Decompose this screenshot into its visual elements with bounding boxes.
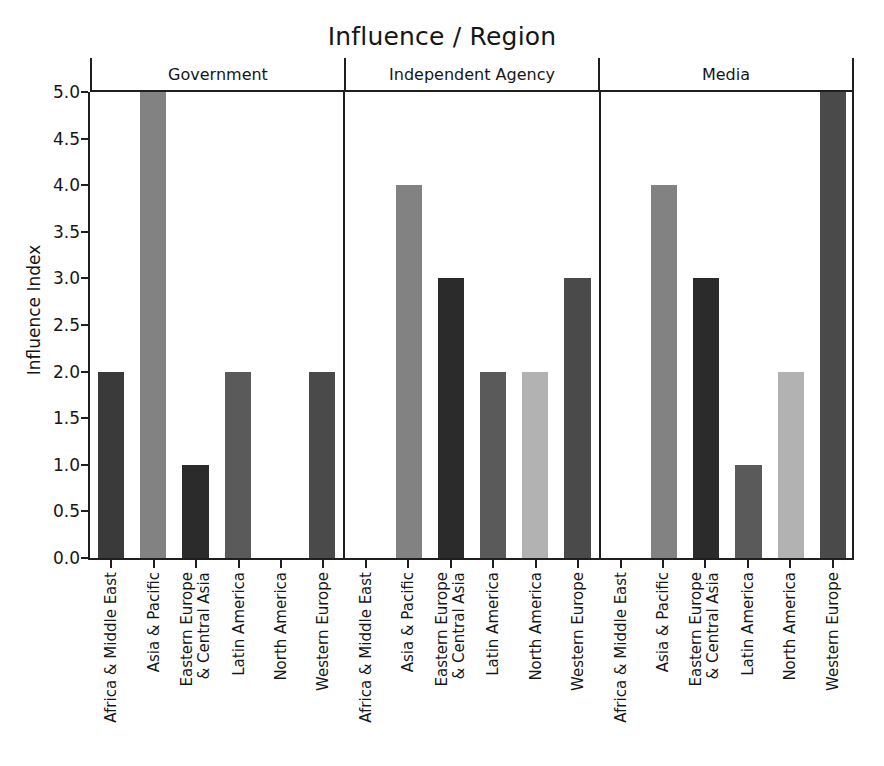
x-tick-label-line: Africa & Middle East [613, 572, 630, 723]
facet-header-label: Independent Agency [389, 65, 555, 84]
x-tick-label-line: & Central Asia [705, 572, 722, 687]
x-tick-label-line: Eastern Europe [688, 572, 705, 687]
x-tick-mark [450, 560, 452, 568]
bar[interactable] [182, 465, 208, 558]
y-tick-mark [81, 138, 88, 140]
bar-slot [685, 92, 727, 558]
x-tick-mark [322, 560, 324, 568]
x-tick-mark [704, 560, 706, 568]
x-tick-label: Eastern Europe& Central Asia [179, 572, 213, 687]
bar[interactable] [651, 185, 677, 558]
x-tick-label-line: Western Europe [315, 572, 332, 691]
x-tick-mark [577, 560, 579, 568]
x-tick-label: Asia & Pacific [400, 572, 417, 672]
chart-title: Influence / Region [0, 22, 884, 51]
x-tick-label: Asia & Pacific [146, 572, 163, 672]
bar-slot [430, 92, 472, 558]
y-tick-label: 3.5 [10, 222, 80, 242]
x-tick-mark [832, 560, 834, 568]
bar[interactable] [778, 372, 804, 558]
facet-panel-independent-agency [343, 92, 598, 558]
y-tick-mark [81, 324, 88, 326]
x-tick-mark [492, 560, 494, 568]
x-tick-label: Africa & Middle East [103, 572, 120, 723]
bar[interactable] [396, 185, 422, 558]
bar[interactable] [564, 278, 590, 558]
y-tick-mark [81, 277, 88, 279]
y-tick-label: 4.5 [10, 129, 80, 149]
bar[interactable] [309, 372, 335, 558]
bar-slot [174, 92, 216, 558]
bar-slot [388, 92, 430, 558]
y-tick-mark [81, 91, 88, 93]
x-tick-mark [365, 560, 367, 568]
bar-slot [217, 92, 259, 558]
bar[interactable] [480, 372, 506, 558]
y-tick-label: 4.0 [10, 175, 80, 195]
y-tick-label: 5.0 [10, 82, 80, 102]
y-tick-label: 1.0 [10, 455, 80, 475]
bar[interactable] [140, 92, 166, 558]
x-tick-label: Western Europe [570, 572, 587, 691]
y-tick-mark [81, 417, 88, 419]
x-tick-label-line: Eastern Europe [434, 572, 451, 687]
bar[interactable] [522, 372, 548, 558]
y-tick-mark [81, 557, 88, 559]
bar[interactable] [820, 92, 846, 558]
x-tick-label-line: & Central Asia [196, 572, 213, 687]
x-tick-mark [620, 560, 622, 568]
x-tick-label-line: Africa & Middle East [358, 572, 375, 723]
x-tick-label-line: Africa & Middle East [103, 572, 120, 723]
y-tick-mark [81, 371, 88, 373]
y-axis-label: Influence Index [24, 180, 44, 440]
y-tick-mark [81, 184, 88, 186]
y-tick-label: 2.0 [10, 362, 80, 382]
bar[interactable] [693, 278, 719, 558]
bar-slot [259, 92, 301, 558]
bar-slot [643, 92, 685, 558]
x-tick-label: Latin America [485, 572, 502, 676]
bar-slot [601, 92, 643, 558]
x-tick-label-line: Asia & Pacific [400, 572, 417, 672]
bar-slot [556, 92, 598, 558]
bar-slot [90, 92, 132, 558]
facet-header-government: Government [92, 58, 344, 90]
x-tick-mark [153, 560, 155, 568]
y-tick-label: 0.0 [10, 548, 80, 568]
x-tick-label: Western Europe [315, 572, 332, 691]
bar-slot [301, 92, 343, 558]
x-tick-mark [747, 560, 749, 568]
facet-header-label: Government [168, 65, 268, 84]
facet-header-label: Media [702, 65, 750, 84]
x-tick-mark [238, 560, 240, 568]
x-tick-label: Eastern Europe& Central Asia [688, 572, 722, 687]
x-tick-label: Asia & Pacific [655, 572, 672, 672]
x-tick-label: Latin America [231, 572, 248, 676]
x-tick-label: Africa & Middle East [613, 572, 630, 723]
axis-spine-bottom [88, 558, 854, 560]
bar-slot [345, 92, 387, 558]
bar-slot [812, 92, 854, 558]
x-tick-label-line: & Central Asia [451, 572, 468, 687]
bar[interactable] [98, 372, 124, 558]
bar[interactable] [225, 372, 251, 558]
facet-header-independent-agency: Independent Agency [344, 58, 598, 90]
y-tick-label: 3.0 [10, 268, 80, 288]
facet-panel-media [599, 92, 854, 558]
x-tick-mark [110, 560, 112, 568]
bar[interactable] [735, 465, 761, 558]
x-tick-label: Eastern Europe& Central Asia [434, 572, 468, 687]
x-tick-label-line: Western Europe [570, 572, 587, 691]
x-tick-label-line: Latin America [231, 572, 248, 676]
x-tick-mark [662, 560, 664, 568]
bar[interactable] [438, 278, 464, 558]
x-tick-label-line: Asia & Pacific [146, 572, 163, 672]
facet-header-media: Media [598, 58, 852, 90]
x-tick-mark [407, 560, 409, 568]
bar-slot [770, 92, 812, 558]
chart-figure: Influence / Region Influence Index Gover… [0, 0, 884, 766]
x-tick-label-line: North America [528, 572, 545, 681]
y-tick-mark [81, 510, 88, 512]
bar-slot [514, 92, 556, 558]
x-tick-mark [789, 560, 791, 568]
